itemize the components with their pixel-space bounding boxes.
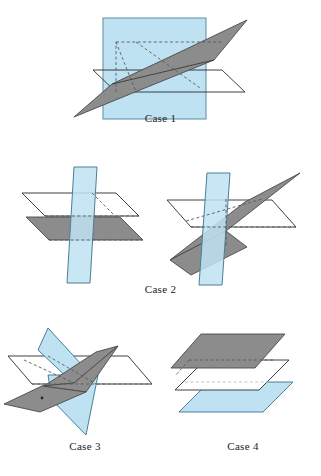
case-1-label: Case 1 [0, 112, 321, 124]
case2-right-blue-plane [199, 173, 230, 285]
case-1-diagram: Case 1 [0, 0, 321, 130]
case3-common-point [41, 397, 44, 400]
case-4-diagram: Case 4 [165, 320, 321, 445]
case-2-diagram: Case 2 [0, 155, 321, 295]
case-3-label: Case 3 [0, 440, 170, 452]
case-3-diagram: Case 3 [0, 320, 170, 445]
case-4-label: Case 4 [165, 440, 321, 452]
case-3-svg [0, 320, 170, 445]
case-4-svg [165, 320, 321, 445]
case-2-svg [0, 155, 321, 295]
plane-intersection-figure: Case 1 Case 2 [0, 0, 321, 476]
case-1-svg [0, 0, 321, 130]
case2-left-blue-plane [67, 167, 97, 283]
case-2-label: Case 2 [0, 283, 321, 295]
